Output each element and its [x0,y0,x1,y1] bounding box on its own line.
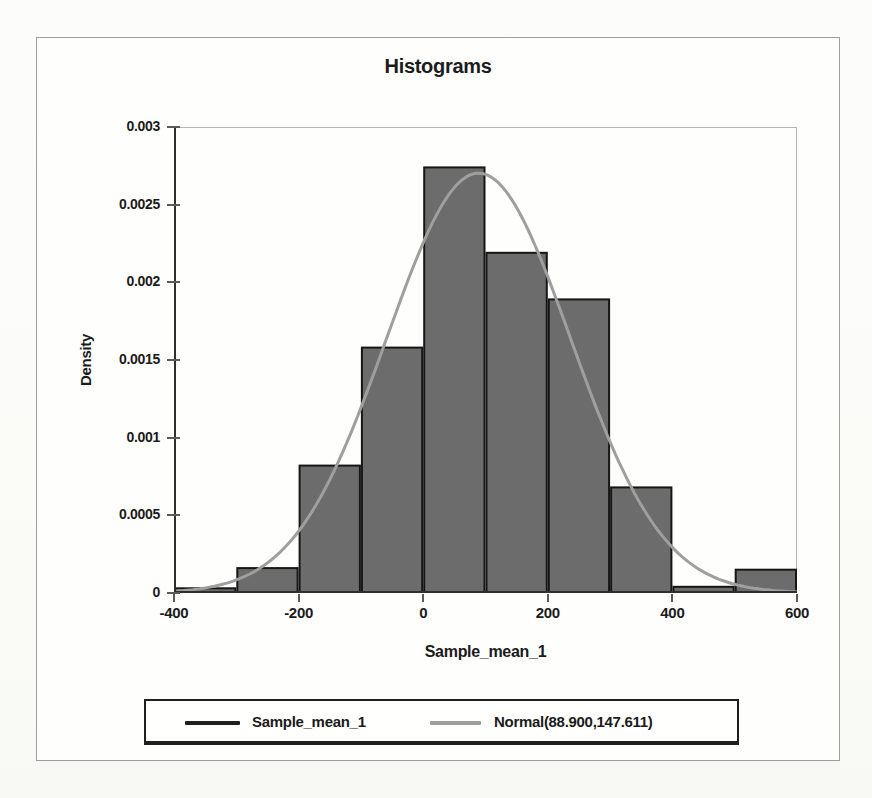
y-tick-mark [167,437,180,439]
x-tick-mark [298,594,300,602]
y-axis-title: Density [77,334,94,386]
histogram-bar [424,167,484,593]
y-tick-label: 0.0015 [52,351,160,367]
x-tick-label: 600 [755,604,839,621]
y-tick-label: 0.0005 [52,506,160,522]
x-tick-mark [173,594,175,602]
x-tick-mark [422,594,424,602]
legend-series-line [185,721,240,725]
x-tick-label: 0 [381,604,465,621]
x-tick-mark [547,594,549,602]
x-tick-label: -200 [257,604,341,621]
x-axis-title: Sample_mean_1 [174,643,797,661]
legend-normal-line [430,721,481,725]
x-tick-mark [796,594,798,602]
y-tick-label: 0.003 [52,118,160,134]
y-tick-label: 0 [52,584,160,600]
legend-normal-label: Normal(88.900,147.611) [494,713,653,730]
legend-box: Sample_mean_1 Normal(88.900,147.611) [144,699,739,745]
y-tick-mark [167,514,180,516]
y-tick-mark [167,204,180,206]
x-tick-label: 200 [506,604,590,621]
chart-title: Histograms [36,55,840,78]
histogram-bar [300,466,360,593]
y-tick-mark [167,126,180,128]
histogram-bar [237,568,297,593]
x-tick-label: -400 [132,604,216,621]
histogram-bar [487,253,547,593]
y-tick-mark [167,281,180,283]
legend-series-label: Sample_mean_1 [252,713,366,730]
x-tick-mark [671,594,673,602]
y-tick-label: 0.001 [52,429,160,445]
histogram-bar [549,299,609,593]
plot-area [174,127,797,593]
scanned-chart-page: Histograms 00.00050.0010.00150.0020.0025… [0,0,872,798]
y-tick-mark [167,359,180,361]
y-tick-label: 0.002 [52,273,160,289]
y-tick-label: 0.0025 [52,196,160,212]
x-tick-label: 400 [630,604,714,621]
